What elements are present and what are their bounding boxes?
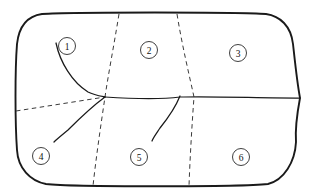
region-label-4-text: 4	[39, 152, 44, 162]
curve-lower-middle	[152, 96, 180, 141]
dashed-divider-2	[177, 14, 194, 186]
curve-lower-left	[54, 97, 105, 142]
region-label-3-text: 3	[236, 49, 241, 59]
rounded-region-outline	[16, 13, 301, 187]
region-label-2: 2	[141, 42, 158, 59]
region-label-2-text: 2	[147, 46, 152, 56]
region-label-6: 6	[233, 149, 250, 166]
region-label-1: 1	[59, 38, 76, 55]
region-label-1-text: 1	[65, 42, 70, 52]
region-label-3: 3	[230, 45, 247, 62]
curve-upper-left	[56, 43, 105, 97]
dashed-left-ray	[16, 97, 105, 111]
dashed-divider-1	[93, 14, 119, 186]
region-label-5: 5	[131, 149, 148, 166]
region-partition-diagram: 1 2 3 4 5 6	[0, 0, 316, 195]
curve-horizontal-separator	[105, 97, 300, 99]
region-label-6-text: 6	[239, 153, 244, 163]
region-label-4: 4	[33, 148, 50, 165]
diagram-canvas: 1 2 3 4 5 6	[0, 0, 316, 195]
region-label-5-text: 5	[137, 153, 142, 163]
